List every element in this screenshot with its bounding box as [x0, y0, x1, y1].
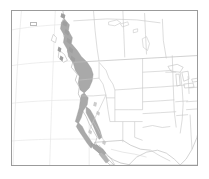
coastline-layer — [52, 11, 197, 165]
inset-marker-box — [30, 22, 37, 26]
map-canvas — [12, 11, 197, 165]
graticule-meridian — [13, 11, 22, 165]
small-lake — [134, 29, 138, 33]
lake-michigan — [176, 74, 180, 86]
graticule-meridian — [50, 11, 56, 165]
range-map-figure — [0, 0, 209, 179]
lake-erie — [184, 83, 194, 88]
haida-gwaii-island — [52, 35, 57, 43]
lake-ontario — [192, 78, 197, 82]
map-frame — [11, 10, 198, 166]
vancouver-island — [58, 50, 67, 62]
